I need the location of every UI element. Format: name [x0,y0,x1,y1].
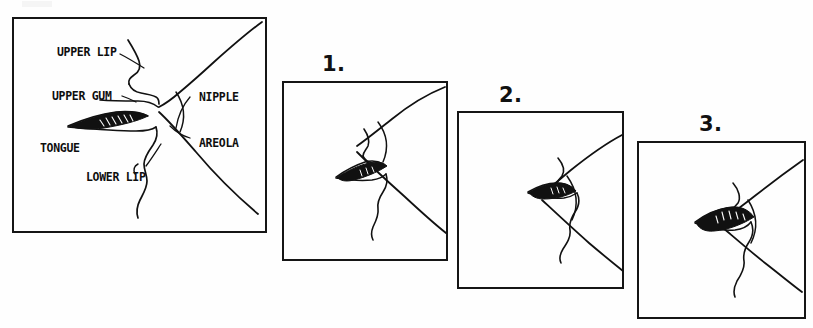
label-areola: AREOLA [199,137,239,150]
diagram-page: UPPER LIP UPPER GUM NIPPLE TONGUE AREOLA… [0,0,813,328]
step-3-frame [637,141,806,319]
main-panel-frame [12,17,267,233]
step-2-number: 2. [499,85,523,106]
label-lower-lip: LOWER LIP [86,171,146,184]
label-upper-gum: UPPER GUM [52,90,112,103]
label-upper-lip: UPPER LIP [57,46,117,59]
step-1-number: 1. [322,54,346,75]
step-2-frame [457,111,624,289]
step-1-frame [282,81,448,261]
label-nipple: NIPPLE [199,91,239,104]
page-smudge-artifact [22,1,52,7]
label-tongue: TONGUE [40,142,80,155]
step-3-number: 3. [699,114,723,135]
